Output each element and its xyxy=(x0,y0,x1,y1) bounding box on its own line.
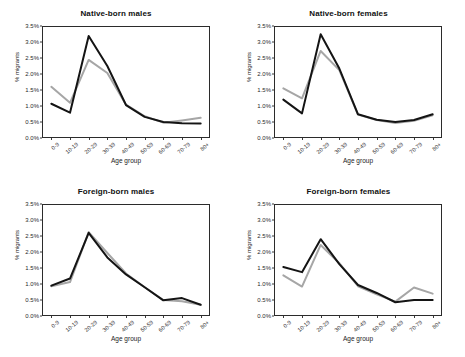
x-axis-tick-label: 70-79 xyxy=(177,142,192,155)
y-axis-tick-label: 3.0% xyxy=(257,39,271,45)
y-axis-tick-mark xyxy=(272,284,274,285)
x-axis-tick-mark xyxy=(163,138,164,140)
x-axis-label: Age group xyxy=(42,158,210,165)
plot-area: 0.0%0.5%1.0%1.5%2.0%2.5%3.0%3.5%0-910-19… xyxy=(42,26,210,138)
y-axis-tick-mark xyxy=(272,106,274,107)
x-axis-tick-mark xyxy=(302,316,303,318)
y-axis-tick-label: 2.0% xyxy=(25,249,39,255)
y-axis-tick-label: 0.5% xyxy=(25,119,39,125)
y-axis-tick-label: 3.0% xyxy=(25,39,39,45)
y-axis-tick-label: 1.5% xyxy=(257,265,271,271)
x-axis-tick-label: 0-9 xyxy=(51,142,61,151)
y-axis-tick-label: 0.0% xyxy=(25,135,39,141)
x-axis-label: Age group xyxy=(274,336,442,343)
x-axis-tick-mark xyxy=(321,138,322,140)
y-axis-tick-mark xyxy=(40,268,42,269)
y-axis-tick-mark xyxy=(40,138,42,139)
y-axis-tick-label: 1.5% xyxy=(257,87,271,93)
y-axis-tick-mark xyxy=(40,204,42,205)
x-axis-tick-mark xyxy=(182,138,183,140)
x-axis-tick-mark xyxy=(414,138,415,140)
x-axis-tick-label: 0-9 xyxy=(283,320,293,329)
y-axis-tick-mark xyxy=(272,138,274,139)
chart-panel-native-born-males: Native-born males % migrants 0.0%0.5%1.0… xyxy=(0,0,232,178)
y-axis-tick-label: 2.0% xyxy=(257,249,271,255)
y-axis-tick-mark xyxy=(272,316,274,317)
y-axis-tick-mark xyxy=(272,220,274,221)
x-axis-tick-mark xyxy=(70,316,71,318)
y-axis-tick-label: 2.5% xyxy=(25,55,39,61)
data-series-line xyxy=(283,239,432,302)
x-axis-tick-mark xyxy=(395,316,396,318)
y-axis-tick-label: 2.5% xyxy=(257,55,271,61)
x-axis-tick-mark xyxy=(126,316,127,318)
y-axis-tick-label: 0.0% xyxy=(25,313,39,319)
x-axis-tick-mark xyxy=(145,138,146,140)
x-axis-tick-label: 50-59 xyxy=(140,320,155,333)
x-axis-tick-label: 20-29 xyxy=(316,320,331,333)
panel-title: Foreign-born males xyxy=(0,187,232,196)
x-axis-tick-mark xyxy=(201,138,202,140)
plot-area: 0.0%0.5%1.0%1.5%2.0%2.5%3.0%3.5%0-910-19… xyxy=(274,204,442,316)
x-axis-tick-mark xyxy=(107,316,108,318)
x-axis-tick-label: 80+ xyxy=(431,142,442,152)
x-axis-tick-mark xyxy=(145,316,146,318)
y-axis-tick-mark xyxy=(272,122,274,123)
y-axis-tick-mark xyxy=(40,26,42,27)
y-axis-label: % migrants xyxy=(246,230,252,260)
x-axis-tick-mark xyxy=(395,138,396,140)
data-series-line xyxy=(283,34,432,122)
x-axis-tick-label: 30-39 xyxy=(334,142,349,155)
y-axis-tick-label: 0.0% xyxy=(257,313,271,319)
x-axis-tick-label: 80+ xyxy=(199,320,210,330)
y-axis-tick-label: 2.5% xyxy=(25,233,39,239)
series-layer xyxy=(42,204,210,316)
y-axis-tick-mark xyxy=(40,90,42,91)
x-axis-tick-mark xyxy=(126,138,127,140)
y-axis-label: % migrants xyxy=(246,52,252,82)
y-axis-tick-label: 3.5% xyxy=(25,23,39,29)
y-axis-tick-mark xyxy=(40,284,42,285)
x-axis-tick-mark xyxy=(201,316,202,318)
y-axis-tick-label: 1.0% xyxy=(25,103,39,109)
y-axis-tick-label: 3.5% xyxy=(25,201,39,207)
x-axis-tick-mark xyxy=(107,138,108,140)
x-axis-tick-mark xyxy=(51,138,52,140)
x-axis-tick-label: 60-69 xyxy=(390,320,405,333)
y-axis-tick-mark xyxy=(40,300,42,301)
y-axis-tick-label: 0.5% xyxy=(257,297,271,303)
x-axis-tick-label: 40-49 xyxy=(353,320,368,333)
x-axis-tick-label: 60-69 xyxy=(158,320,173,333)
x-axis-tick-mark xyxy=(321,316,322,318)
y-axis-tick-label: 3.0% xyxy=(257,217,271,223)
chart-panel-foreign-born-males: Foreign-born males % migrants 0.0%0.5%1.… xyxy=(0,178,232,357)
panel-title: Native-born females xyxy=(232,9,465,18)
y-axis-tick-mark xyxy=(40,316,42,317)
chart-panel-native-born-females: Native-born females % migrants 0.0%0.5%1… xyxy=(232,0,465,178)
x-axis-tick-label: 10-19 xyxy=(297,320,312,333)
x-axis-tick-mark xyxy=(89,316,90,318)
x-axis-tick-label: 70-79 xyxy=(409,142,424,155)
x-axis-tick-label: 0-9 xyxy=(283,142,293,151)
x-axis-tick-mark xyxy=(163,316,164,318)
y-axis-tick-label: 2.0% xyxy=(25,71,39,77)
x-axis-tick-mark xyxy=(339,316,340,318)
data-series-line xyxy=(51,36,200,124)
y-axis-label: % migrants xyxy=(14,230,20,260)
series-layer xyxy=(274,26,442,138)
y-axis-tick-label: 1.5% xyxy=(25,87,39,93)
x-axis-tick-mark xyxy=(70,138,71,140)
y-axis-tick-mark xyxy=(40,74,42,75)
y-axis-tick-mark xyxy=(40,106,42,107)
x-axis-tick-label: 40-49 xyxy=(353,142,368,155)
y-axis-tick-label: 3.5% xyxy=(257,23,271,29)
x-axis-tick-label: 50-59 xyxy=(372,142,387,155)
y-axis-tick-label: 0.5% xyxy=(25,297,39,303)
x-axis-tick-label: 20-29 xyxy=(316,142,331,155)
y-axis-tick-label: 0.5% xyxy=(257,119,271,125)
y-axis-tick-mark xyxy=(272,42,274,43)
y-axis-tick-mark xyxy=(272,268,274,269)
x-axis-tick-mark xyxy=(358,138,359,140)
data-series-line xyxy=(51,60,200,123)
x-axis-label: Age group xyxy=(42,336,210,343)
